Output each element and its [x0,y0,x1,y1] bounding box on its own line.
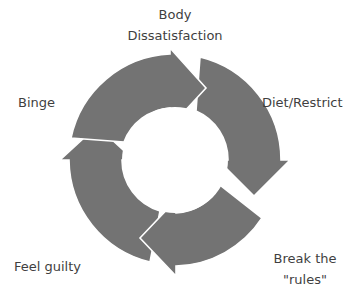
stage-label-line: Dissatisfaction [110,25,240,46]
stage-label-line: "rules" [262,269,348,290]
stage-label-feel-guilty: Feel guilty [14,256,104,277]
stage-label-diet-restrict: Diet/Restrict [262,92,358,113]
stage-label-line: Break the [262,248,348,269]
stage-label-binge: Binge [18,92,78,113]
ring-hole [122,107,228,213]
stage-label-line: Feel guilty [14,256,104,277]
stage-label-break-the-rules: Break the "rules" [262,248,348,290]
stage-label-body-dissatisfaction: Body Dissatisfaction [110,4,240,46]
stage-label-line: Body [110,4,240,25]
stage-label-line: Binge [18,92,78,113]
stage-label-line: Diet/Restrict [262,92,358,113]
